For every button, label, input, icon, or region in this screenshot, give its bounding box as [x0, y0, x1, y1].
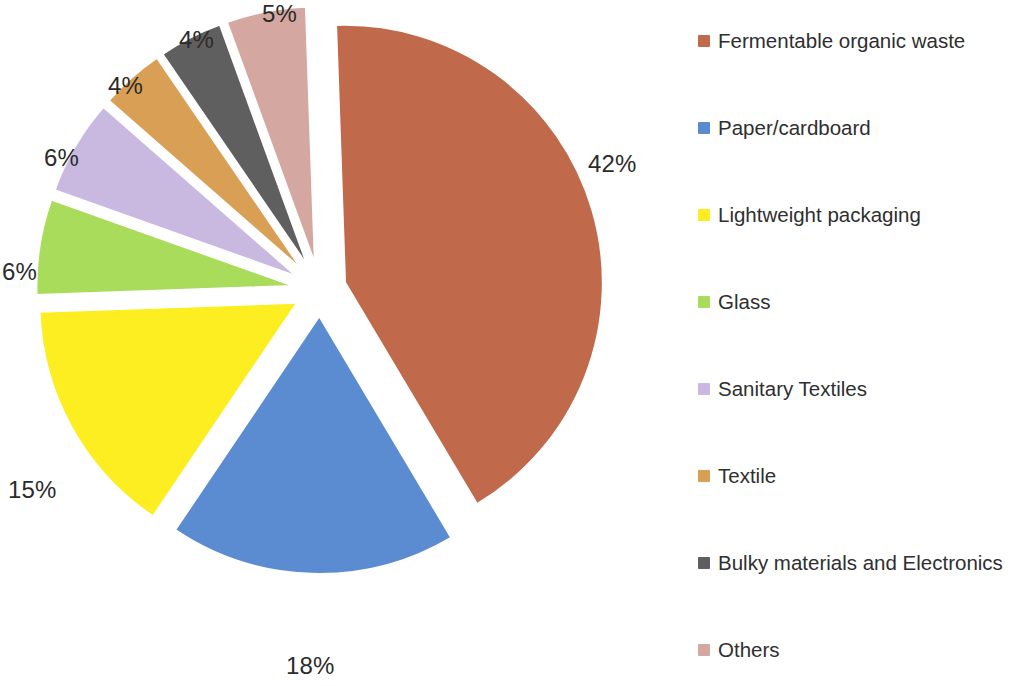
legend-item[interactable]: Others: [698, 639, 780, 661]
legend-color-swatch-icon: [698, 122, 710, 134]
pie-slice-percentage-label: 6%: [44, 146, 79, 170]
pie-slice-percentage-label: 42%: [588, 152, 637, 176]
legend-color-swatch-icon: [698, 644, 710, 656]
pie-chart: 42%18%15%6%6%4%4%5% Fermentable organic …: [0, 0, 1036, 686]
legend-item[interactable]: Textile: [698, 465, 776, 487]
legend-color-swatch-icon: [698, 557, 710, 569]
legend-item[interactable]: Fermentable organic waste: [698, 30, 965, 52]
pie-plot-area: 42%18%15%6%6%4%4%5%: [0, 0, 686, 686]
legend-color-swatch-icon: [698, 383, 710, 395]
pie-svg: [0, 0, 686, 686]
legend-item[interactable]: Sanitary Textiles: [698, 378, 867, 400]
legend-item-label: Glass: [718, 292, 770, 313]
pie-slice-percentage-label: 4%: [179, 28, 214, 52]
pie-slice-percentage-label: 18%: [286, 654, 335, 678]
legend-item-label: Textile: [718, 466, 776, 487]
legend-color-swatch-icon: [698, 35, 710, 47]
legend-item-label: Lightweight packaging: [718, 205, 921, 226]
legend-item-label: Bulky materials and Electronics: [718, 553, 1003, 574]
legend-item-label: Fermentable organic waste: [718, 31, 965, 52]
chart-legend: Fermentable organic wastePaper/cardboard…: [698, 0, 1036, 686]
legend-item[interactable]: Paper/cardboard: [698, 117, 871, 139]
legend-item-label: Paper/cardboard: [718, 118, 871, 139]
pie-slice-percentage-label: 15%: [8, 478, 57, 502]
legend-item-label: Others: [718, 640, 780, 661]
legend-item[interactable]: Lightweight packaging: [698, 204, 921, 226]
legend-color-swatch-icon: [698, 296, 710, 308]
legend-color-swatch-icon: [698, 209, 710, 221]
legend-color-swatch-icon: [698, 470, 710, 482]
legend-item[interactable]: Glass: [698, 291, 770, 313]
legend-item-label: Sanitary Textiles: [718, 379, 867, 400]
pie-slice-percentage-label: 5%: [262, 2, 297, 26]
pie-slice-percentage-label: 6%: [2, 260, 37, 284]
legend-item[interactable]: Bulky materials and Electronics: [698, 552, 1003, 574]
pie-slice-percentage-label: 4%: [108, 74, 143, 98]
